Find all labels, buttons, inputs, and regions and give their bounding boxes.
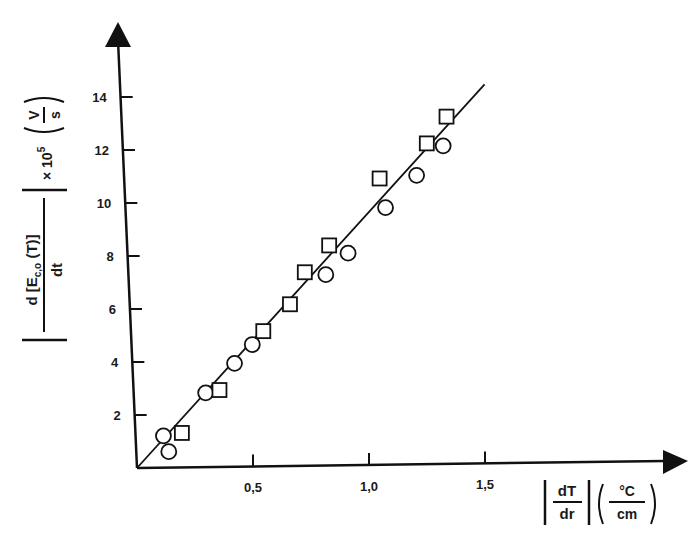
square-point <box>212 383 226 397</box>
y-label-scale: × 105 <box>36 146 55 180</box>
y-tick-label: 12 <box>95 143 109 158</box>
y-tick-label: 4 <box>111 355 119 370</box>
circle-point <box>341 246 356 261</box>
square-point <box>440 110 454 124</box>
x-axis-arrow-icon <box>663 450 688 474</box>
x-label-denominator: dr <box>560 505 575 522</box>
square-point <box>283 297 297 311</box>
circle-point <box>378 200 393 215</box>
y-label-denominator: dt <box>48 263 65 277</box>
circle-point <box>318 267 333 282</box>
y-axis-arrow-icon <box>105 22 131 47</box>
circle-point <box>198 385 213 400</box>
x-unit-numerator: °C <box>619 483 635 499</box>
square-point <box>420 136 434 150</box>
x-label-numerator: dT <box>558 482 576 499</box>
y-unit-numerator: V <box>26 110 42 120</box>
scatter-chart: 2468101214 0,51,01,5 d [Ec,o (T)] dt × 1… <box>0 0 692 537</box>
circle-point <box>436 138 451 153</box>
y-axis <box>118 40 137 468</box>
x-unit-denominator: cm <box>617 506 637 522</box>
x-tick-label: 0,5 <box>244 480 262 495</box>
x-axis <box>137 461 665 468</box>
circle-point <box>409 168 424 183</box>
square-point <box>256 324 270 338</box>
y-tick-label: 6 <box>109 302 116 317</box>
circle-point <box>156 428 171 443</box>
circle-point <box>161 444 176 459</box>
square-point <box>298 265 312 279</box>
y-axis-label: d [Ec,o (T)] dt × 105 V s <box>22 98 67 340</box>
x-tick-label: 1,5 <box>476 477 494 492</box>
y-label-numerator: d [Ec,o (T)] <box>23 234 43 305</box>
circle-point <box>227 356 242 371</box>
y-ticks: 2468101214 <box>92 90 146 423</box>
y-tick-label: 8 <box>106 249 113 264</box>
data-points <box>156 110 454 460</box>
y-tick-label: 10 <box>97 196 111 211</box>
square-point <box>175 426 189 440</box>
y-unit-denominator: s <box>47 111 63 119</box>
circle-point <box>245 337 260 352</box>
square-point <box>373 171 387 185</box>
y-tick-label: 14 <box>92 90 107 105</box>
x-tick-label: 1,0 <box>360 479 378 494</box>
x-ticks: 0,51,01,5 <box>244 451 494 495</box>
square-point <box>322 238 336 252</box>
x-axis-label: dT dr °C cm <box>545 480 655 525</box>
y-tick-label: 2 <box>113 408 120 423</box>
